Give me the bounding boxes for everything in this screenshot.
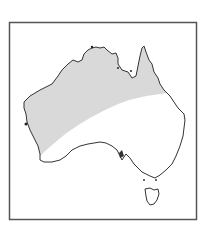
island-marker <box>130 70 132 72</box>
australia-map <box>0 0 205 231</box>
island-marker <box>155 179 157 181</box>
island-marker <box>143 179 145 181</box>
island-marker <box>117 67 119 69</box>
island-marker <box>91 46 93 48</box>
island-marker <box>25 123 28 126</box>
map-figure <box>0 0 205 231</box>
